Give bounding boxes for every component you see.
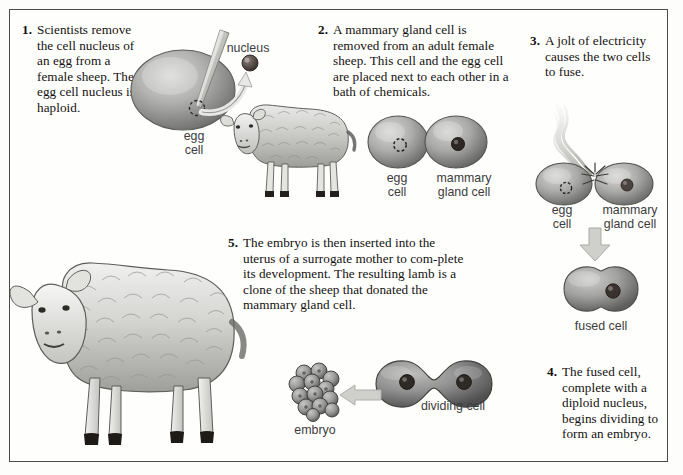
step-5-text: 5. The embryo is then inserted into the …	[228, 235, 471, 313]
step-5-body: The embryo is then inserted into the ute…	[243, 235, 471, 313]
label-egg-cell-top: egg cell	[172, 130, 216, 157]
step-4-text: 4. The fused cell, complete with a diplo…	[547, 364, 663, 442]
cloned-sheep-hooves	[84, 431, 214, 445]
label-dividing-cell: dividing cell	[398, 400, 508, 414]
donor-sheep	[218, 80, 360, 205]
sheep-ear-left	[221, 115, 234, 126]
embryo-cells	[289, 363, 339, 422]
label-fused-cell: fused cell	[546, 320, 656, 334]
sheep-hooves	[265, 191, 339, 197]
label-nucleus: nucleus	[218, 42, 278, 56]
step-4-number: 4.	[547, 364, 557, 380]
embryo-left-arrow	[340, 382, 382, 408]
fusing-mammary-nucleus	[621, 179, 633, 191]
fusion-down-arrow	[578, 228, 614, 262]
step-4-body: The fused cell, complete with a diploid …	[562, 364, 663, 442]
sheep-tail	[348, 132, 355, 150]
fused-cell	[556, 262, 646, 316]
dividing-cell-nucleus-left	[400, 375, 415, 390]
extracted-nucleus	[242, 55, 258, 71]
fused-cell-diploid-nucleus	[606, 284, 620, 298]
step-3-text: 3. A jolt of electricity causes the two …	[530, 33, 660, 80]
embryo-morula	[286, 362, 344, 420]
step-1-body: Scientists remove the cell nucleus of an…	[37, 22, 142, 116]
sheep-eye-left	[236, 125, 240, 128]
sheep-eye-right	[249, 124, 253, 127]
step-1-text: 1. Scientists remove the cell nucleus of…	[22, 22, 142, 116]
label-egg-cell-pair: egg cell	[370, 172, 424, 199]
cloned-sheep-eye-left	[38, 307, 45, 313]
label-embryo: embryo	[278, 424, 352, 438]
step-3-number: 3.	[530, 33, 540, 49]
step-2-number: 2.	[318, 22, 328, 38]
dividing-cell-nucleus-right	[457, 375, 472, 390]
label-mammary-gland-cell-pair: mammary gland cell	[424, 172, 504, 199]
fusing-cell-pair	[534, 100, 659, 206]
step-3-body: A jolt of electricity causes the two cel…	[545, 33, 660, 80]
figure-canvas: 1. Scientists remove the cell nucleus of…	[0, 0, 683, 475]
step-1-number: 1.	[22, 22, 32, 38]
cell-pair	[366, 113, 490, 171]
cloned-sheep-eye-right	[62, 305, 69, 311]
cloned-lamb-sheep	[16, 218, 244, 460]
mammary-cell-nucleus	[451, 137, 464, 150]
